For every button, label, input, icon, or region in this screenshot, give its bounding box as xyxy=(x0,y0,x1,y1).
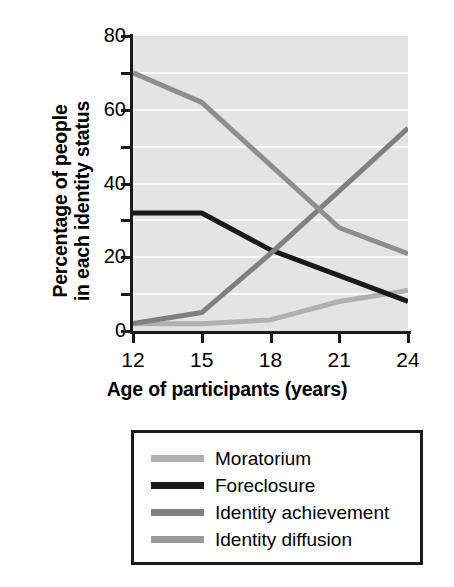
x-tick-label-18: 18 xyxy=(246,348,296,372)
chart-figure: Percentage of people in each identity st… xyxy=(0,0,454,587)
legend-swatch-icon xyxy=(151,509,204,516)
legend-item-foreclosure: Foreclosure xyxy=(134,472,420,499)
x-tick-label-21: 21 xyxy=(314,348,364,372)
x-tick-mark-15 xyxy=(201,334,204,343)
y-tick-mark-20 xyxy=(121,256,131,259)
series-line-identity-achievement xyxy=(133,128,408,323)
x-tick-mark-18 xyxy=(270,334,273,343)
x-axis-title: Age of participants (years) xyxy=(0,378,454,401)
series-lines xyxy=(133,36,408,331)
legend-item-moratorium: Moratorium xyxy=(134,445,420,472)
x-tick-label-24: 24 xyxy=(383,348,433,372)
x-tick-mark-24 xyxy=(407,334,410,343)
y-tick-mark-30 xyxy=(121,219,131,222)
y-axis-title-line-1: Percentage of people xyxy=(49,104,71,297)
legend-swatch-icon xyxy=(151,536,204,543)
legend-item-identity-achievement: Identity achievement xyxy=(134,499,420,526)
series-line-foreclosure xyxy=(133,213,408,302)
legend-label: Identity diffusion xyxy=(215,530,352,550)
y-tick-mark-50 xyxy=(121,146,131,149)
chart-legend: MoratoriumForeclosureIdentity achievemen… xyxy=(131,430,423,565)
legend-label: Identity achievement xyxy=(215,503,389,523)
legend-swatch-icon xyxy=(151,482,204,489)
x-tick-mark-21 xyxy=(338,334,341,343)
legend-item-identity-diffusion: Identity diffusion xyxy=(134,526,420,553)
legend-label: Foreclosure xyxy=(215,476,315,496)
x-tick-label-15: 15 xyxy=(177,348,227,372)
legend-swatch-icon xyxy=(151,455,204,462)
y-tick-mark-0 xyxy=(121,330,131,333)
x-tick-mark-12 xyxy=(132,334,135,343)
y-tick-mark-80 xyxy=(121,35,131,38)
y-tick-mark-70 xyxy=(121,72,131,75)
y-tick-mark-60 xyxy=(121,109,131,112)
y-tick-mark-10 xyxy=(121,293,131,296)
y-axis-tick-labels: 020406080 xyxy=(86,0,126,587)
legend-label: Moratorium xyxy=(215,449,311,469)
x-tick-label-12: 12 xyxy=(108,348,158,372)
y-tick-mark-40 xyxy=(121,183,131,186)
plot-area xyxy=(133,36,408,331)
